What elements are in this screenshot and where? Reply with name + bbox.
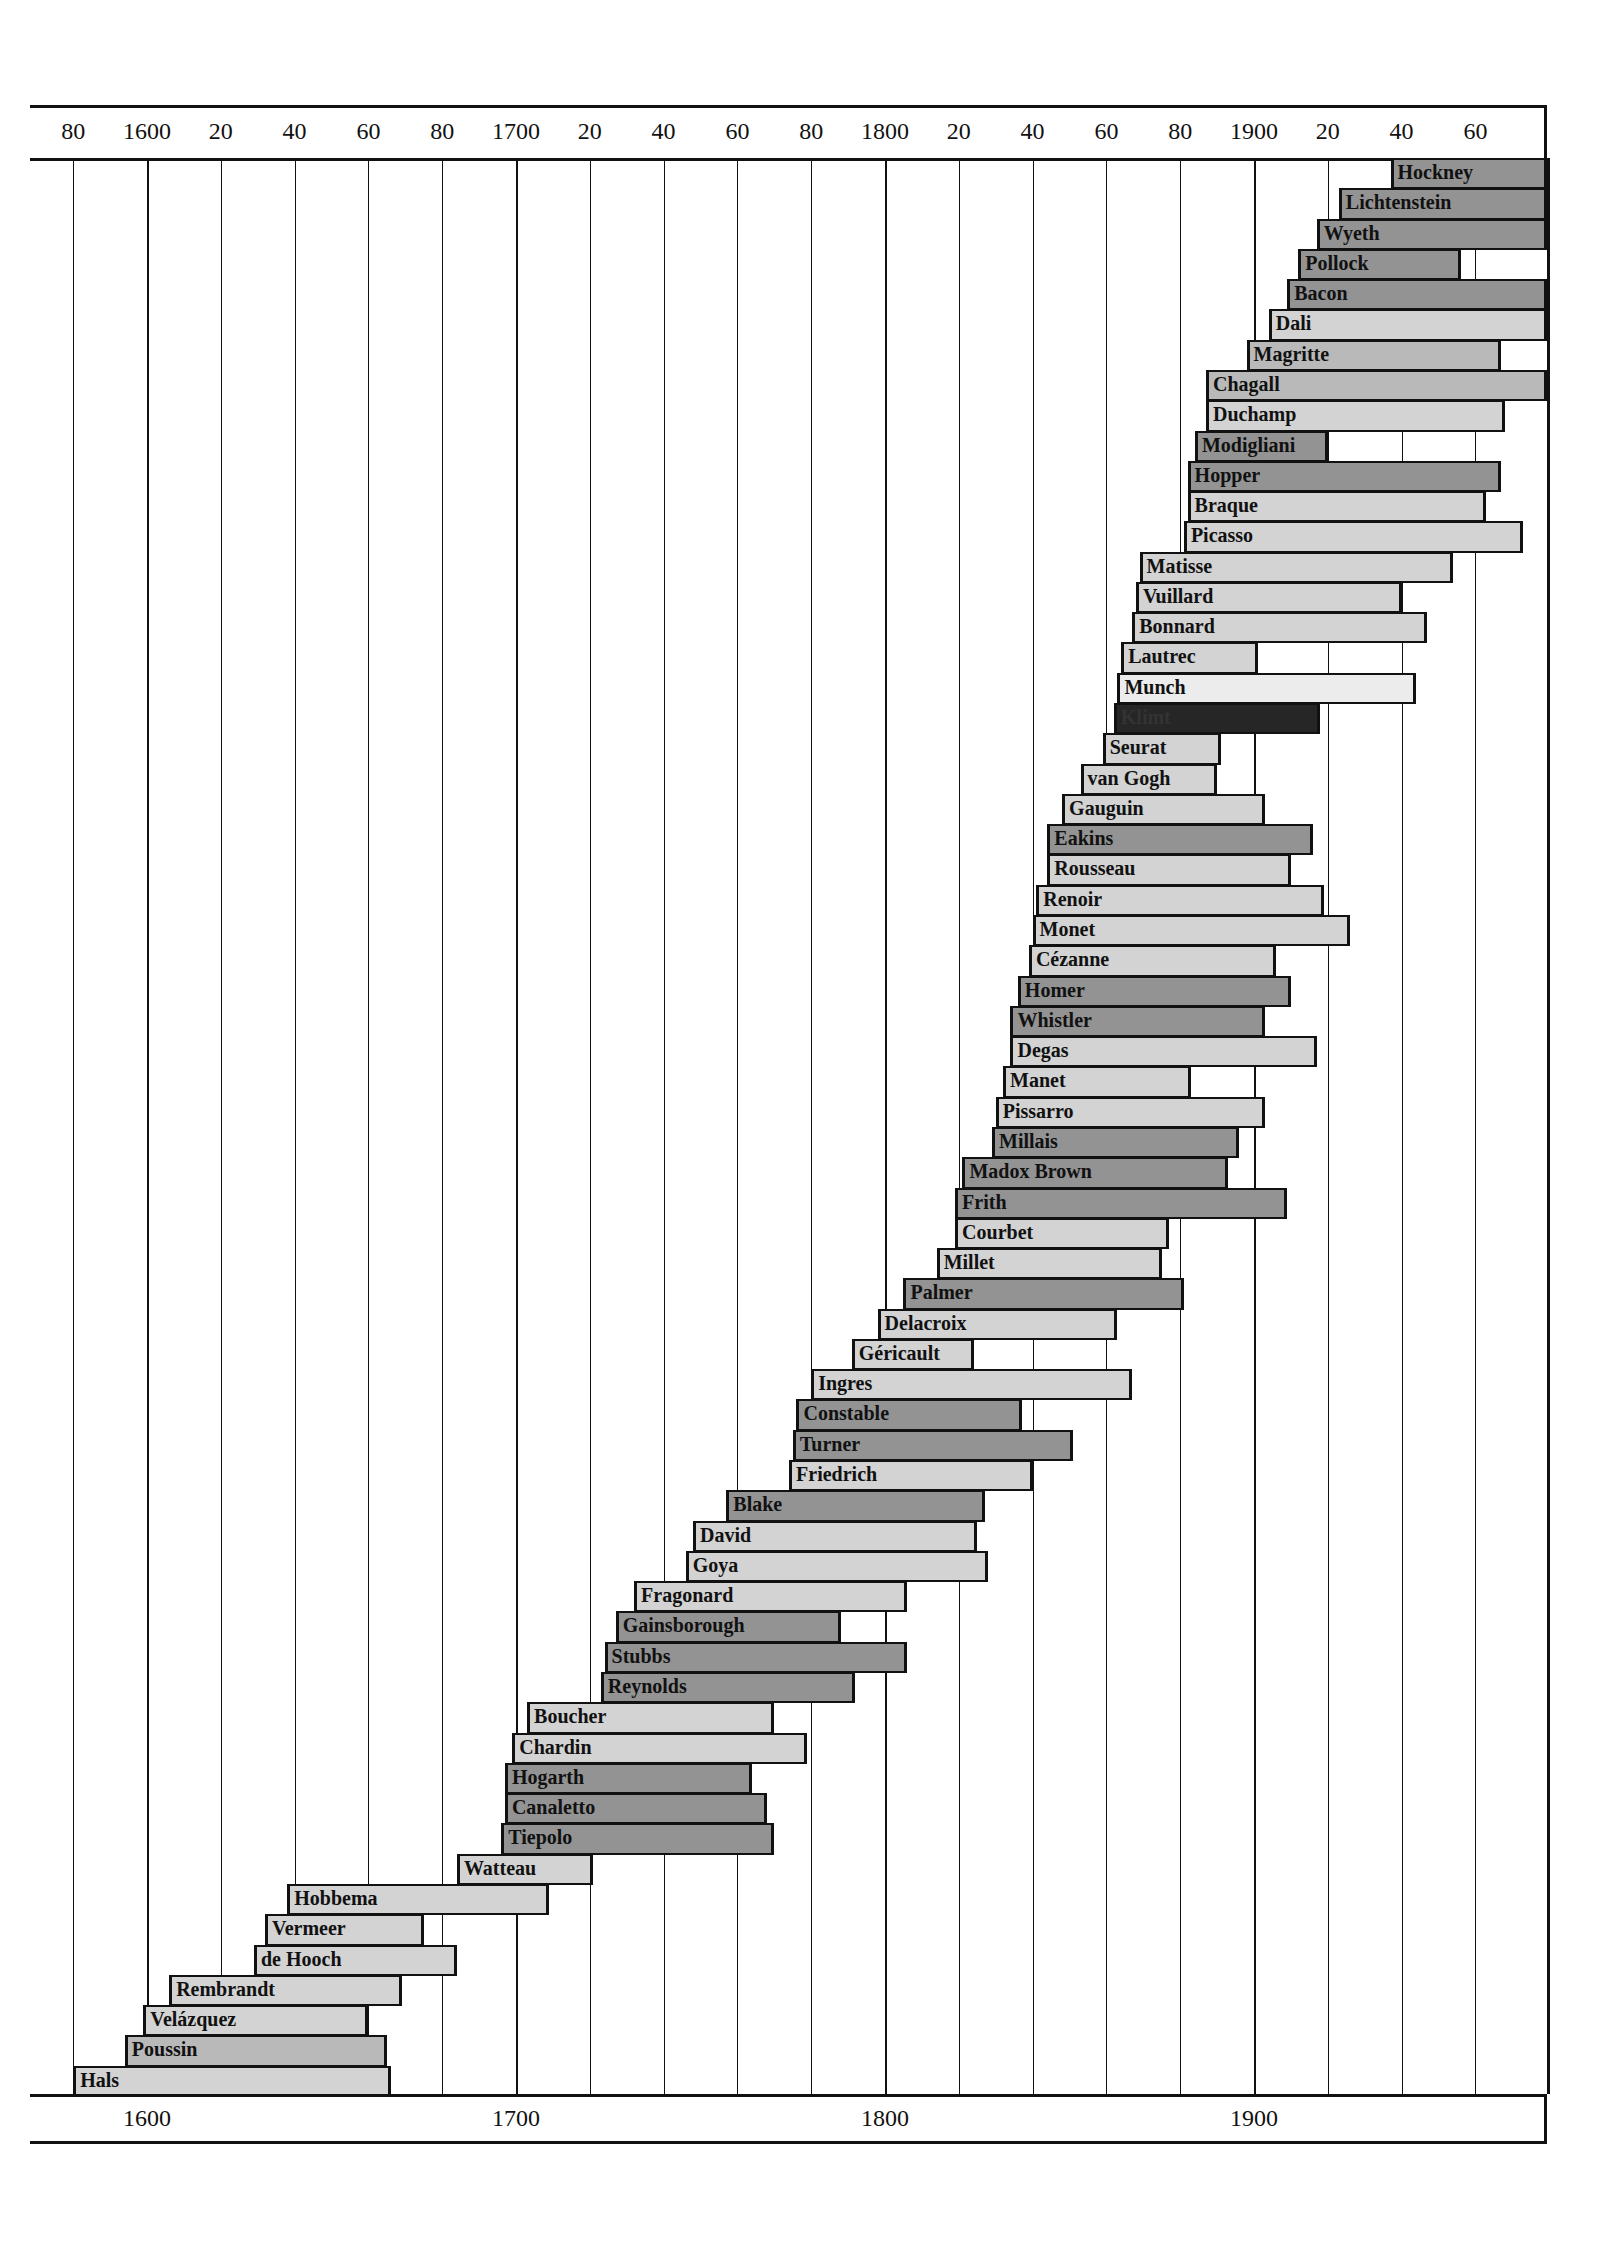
artist-bar: Pollock <box>1298 249 1460 280</box>
artist-bar: de Hooch <box>254 1945 457 1976</box>
artist-name-label: Poussin <box>132 2037 198 2062</box>
artist-name-label: Constable <box>803 1401 889 1426</box>
artist-name-label: Monet <box>1040 917 1096 942</box>
gridline-1640 <box>295 158 296 2094</box>
artist-bar: Ingres <box>811 1369 1132 1400</box>
artist-bar: Vuillard <box>1136 582 1402 613</box>
artist-bar: David <box>693 1521 977 1552</box>
artist-bar: Millais <box>992 1127 1239 1158</box>
artist-name-label: Braque <box>1195 493 1258 518</box>
artist-name-label: Modigliani <box>1202 433 1295 458</box>
artist-bar: Madox Brown <box>962 1157 1228 1188</box>
artist-lifespan-timeline-chart: 8016002040608017002040608018002040608019… <box>0 0 1614 2249</box>
artist-bar: Blake <box>726 1490 984 1521</box>
artist-name-label: Stubbs <box>612 1644 671 1669</box>
artist-name-label: Hals <box>80 2068 119 2093</box>
artist-name-label: Géricault <box>859 1341 940 1366</box>
top-tick-label: 20 <box>947 118 971 145</box>
artist-name-label: Pissarro <box>1003 1099 1074 1124</box>
artist-bar: Poussin <box>125 2035 387 2066</box>
artist-name-label: Turner <box>800 1432 860 1457</box>
artist-name-label: Lichtenstein <box>1346 190 1452 215</box>
artist-name-label: Wyeth <box>1324 221 1380 246</box>
artist-bar: Turner <box>793 1430 1073 1461</box>
artist-name-label: Magritte <box>1254 342 1330 367</box>
artist-bar: Magritte <box>1247 340 1502 371</box>
artist-name-label: Homer <box>1025 978 1085 1003</box>
artist-name-label: Watteau <box>464 1856 536 1881</box>
artist-name-label: van Gogh <box>1088 766 1171 791</box>
bottom-axis-band <box>30 2094 1547 2144</box>
top-tick-label: 60 <box>725 118 749 145</box>
top-tick-label: 40 <box>1390 118 1414 145</box>
artist-bar: Millet <box>937 1248 1162 1279</box>
artist-name-label: Picasso <box>1191 523 1253 548</box>
gridline-1920 <box>1328 158 1329 2094</box>
top-tick-label: 1700 <box>492 118 540 145</box>
artist-bar: Munch <box>1117 673 1416 704</box>
plot-area: HockneyLichtensteinWyethPollockBaconDali… <box>30 158 1550 2094</box>
artist-name-label: Manet <box>1010 1068 1066 1093</box>
artist-bar: Braque <box>1188 491 1487 522</box>
artist-name-label: Hobbema <box>294 1886 377 1911</box>
artist-name-label: Pollock <box>1305 251 1368 276</box>
artist-bar: Delacroix <box>878 1309 1118 1340</box>
top-tick-label: 20 <box>578 118 602 145</box>
gridline-1820 <box>959 158 960 2094</box>
artist-name-label: Madox Brown <box>969 1159 1091 1184</box>
top-tick-label: 20 <box>209 118 233 145</box>
artist-bar: Lichtenstein <box>1339 188 1547 219</box>
artist-bar: Matisse <box>1140 552 1454 583</box>
artist-bar: Eakins <box>1047 824 1313 855</box>
artist-name-label: Ingres <box>818 1371 872 1396</box>
artist-name-label: Chagall <box>1213 372 1280 397</box>
artist-bar: Manet <box>1003 1066 1191 1097</box>
gridline-1960 <box>1475 158 1476 2094</box>
top-tick-label: 20 <box>1316 118 1340 145</box>
top-tick-label: 1800 <box>861 118 909 145</box>
artist-bar: Lautrec <box>1121 642 1258 673</box>
artist-bar: Chagall <box>1206 370 1547 401</box>
artist-bar: Cézanne <box>1029 945 1276 976</box>
artist-bar: Seurat <box>1103 733 1221 764</box>
artist-name-label: Matisse <box>1147 554 1213 579</box>
artist-name-label: Eakins <box>1054 826 1113 851</box>
artist-name-label: Rembrandt <box>176 1977 275 2002</box>
gridline-1680 <box>442 158 443 2094</box>
artist-name-label: Lautrec <box>1128 644 1195 669</box>
artist-bar: Hals <box>73 2066 390 2097</box>
artist-name-label: Blake <box>733 1492 782 1517</box>
artist-name-label: Hopper <box>1195 463 1261 488</box>
bottom-tick-label: 1800 <box>861 2105 909 2132</box>
gridline-1620 <box>221 158 222 2094</box>
top-tick-label: 40 <box>283 118 307 145</box>
artist-name-label: Munch <box>1124 675 1185 700</box>
gridline-1580 <box>73 158 74 2094</box>
artist-bar: Tiepolo <box>501 1823 774 1854</box>
artist-name-label: Vermeer <box>272 1916 346 1941</box>
artist-bar: Bonnard <box>1132 612 1427 643</box>
artist-name-label: Millet <box>944 1250 995 1275</box>
artist-name-label: Seurat <box>1110 735 1167 760</box>
artist-name-label: Delacroix <box>885 1311 967 1336</box>
artist-bar: Klimt <box>1114 703 1321 734</box>
gridline-1780 <box>811 158 812 2094</box>
gridline-1940 <box>1402 158 1403 2094</box>
top-tick-label: 1600 <box>123 118 171 145</box>
artist-name-label: Gauguin <box>1069 796 1143 821</box>
artist-name-label: Dali <box>1276 311 1312 336</box>
artist-name-label: Bacon <box>1294 281 1347 306</box>
artist-name-label: Whistler <box>1017 1008 1091 1033</box>
artist-bar: Homer <box>1018 976 1291 1007</box>
artist-name-label: Friedrich <box>796 1462 877 1487</box>
artist-bar: Pissarro <box>996 1097 1265 1128</box>
top-tick-label: 40 <box>652 118 676 145</box>
artist-bar: Vermeer <box>265 1914 424 1945</box>
bottom-tick-label: 1700 <box>492 2105 540 2132</box>
top-tick-label: 80 <box>799 118 823 145</box>
artist-name-label: Bonnard <box>1139 614 1215 639</box>
top-tick-label: 60 <box>1094 118 1118 145</box>
artist-bar: Boucher <box>527 1702 774 1733</box>
artist-name-label: Goya <box>693 1553 739 1578</box>
artist-bar: Courbet <box>955 1218 1169 1249</box>
